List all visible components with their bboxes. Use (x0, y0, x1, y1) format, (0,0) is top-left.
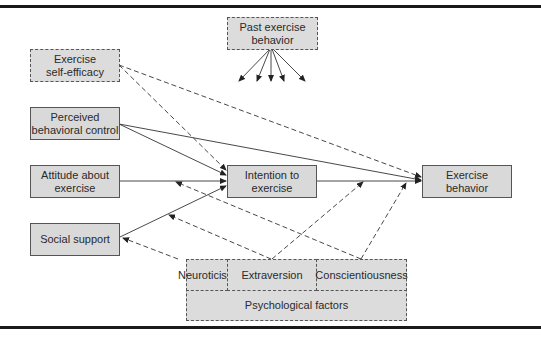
node-label: Conscientiousness (315, 269, 407, 282)
node-label: behavior (446, 182, 488, 194)
node-exercise-behavior: Exercisebehavior (422, 165, 512, 198)
node-label: Attitude about (41, 169, 109, 181)
node-conscientiousness: Conscientiousness (316, 259, 407, 291)
node-label: Past exercise (239, 21, 305, 33)
node-extraversion: Extraversion (227, 259, 317, 291)
node-social-support: Social support (30, 223, 120, 256)
node-label: self-efficacy (46, 66, 104, 78)
node-label: Perceived (51, 111, 100, 123)
node-label: Extraversion (241, 269, 302, 282)
node-perceived-behavioral-control: Perceivedbehavioral control (30, 107, 120, 140)
node-label: Social support (40, 233, 110, 246)
node-label: Psychological factors (245, 299, 348, 312)
node-label: Exercise (446, 169, 488, 181)
node-neuroticism-cell: Neuroticism (186, 259, 228, 291)
node-label: exercise (252, 182, 293, 194)
node-label: Intention to (245, 169, 299, 181)
node-attitude-about-exercise: Attitude aboutexercise (30, 165, 120, 198)
node-label: Exercise (54, 53, 96, 65)
node-exercise-self-efficacy: Exerciseself-efficacy (30, 49, 120, 82)
node-past-exercise-behavior: Past exercisebehavior (227, 17, 318, 50)
node-label: exercise (55, 182, 96, 194)
node-label: behavior (251, 34, 293, 46)
node-intention-to-exercise: Intention toexercise (227, 165, 317, 198)
node-label: behavioral control (32, 124, 119, 136)
